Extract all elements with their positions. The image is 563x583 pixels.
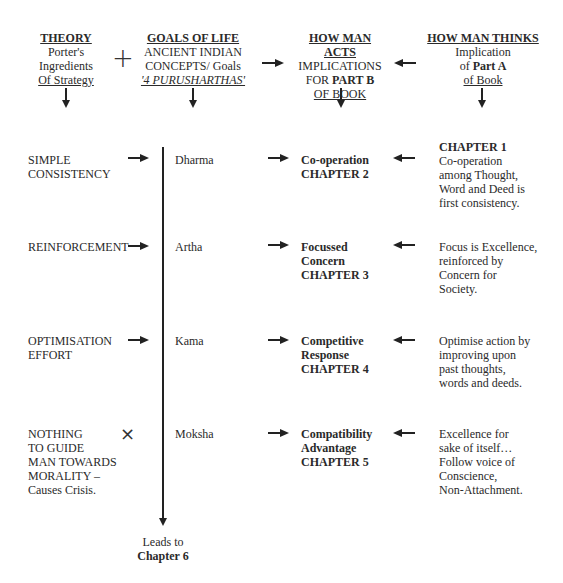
thought-to-action-arrow-icon (393, 241, 415, 249)
thought-excellence-for-sake: Excellence forsake of itself… Follow voi… (439, 427, 523, 497)
goals-line2: CONCEPTS/ Goals (136, 59, 250, 73)
thought-chapter1: CHAPTER 1 Co-operationamong Thought, Wor… (439, 140, 525, 210)
acts-title: HOW MAN ACTS (292, 31, 388, 59)
action-focussed-concern: FocussedConcernCHAPTER 3 (301, 240, 369, 282)
theory-line2: Ingredients (28, 59, 104, 73)
goal-to-action-arrow-icon (268, 241, 289, 249)
strategy-simple-consistency: SIMPLECONSISTENCY (28, 153, 111, 181)
goal-to-action-arrow-icon (268, 336, 289, 344)
thinks-line1: Implication (425, 45, 541, 59)
thinks-line3: of Book (425, 73, 541, 87)
header-thinks: HOW MAN THINKS Implication of Part A of … (425, 31, 541, 87)
goal-kama: Kama (175, 334, 204, 348)
goals-spine-line (162, 147, 164, 523)
thought-to-action-arrow-icon (393, 336, 415, 344)
thought-optimise-action: Optimise action byimproving upon past th… (439, 334, 530, 390)
strategy-arrow-icon (128, 154, 149, 162)
theory-line3: Of Strategy (28, 73, 104, 87)
footer-line1: Leads to (123, 535, 203, 549)
strategy-arrow-icon (128, 242, 149, 250)
goal-to-action-arrow-icon (268, 429, 289, 437)
acts-line2: FOR PART B (292, 73, 388, 87)
strategy-arrow-icon (128, 336, 149, 344)
thought-focus-excellence: Focus is Excellence,reinforced by Concer… (439, 240, 537, 296)
goal-to-action-arrow-icon (268, 154, 289, 162)
footer-chapter6: Chapter 6 (123, 549, 203, 563)
action-compatibility-advantage: CompatibilityAdvantageCHAPTER 5 (301, 427, 372, 469)
theory-title: THEORY (28, 31, 104, 45)
goal-dharma: Dharma (175, 153, 214, 167)
goal-artha: Artha (175, 240, 202, 254)
theory-line1: Porter's (28, 45, 104, 59)
goals-to-acts-arrow-icon (262, 59, 284, 67)
goals-line1: ANCIENT INDIAN (136, 45, 250, 59)
action-cooperation: Co-operationCHAPTER 2 (301, 153, 369, 181)
goal-moksha: Moksha (175, 427, 214, 441)
thought-to-action-arrow-icon (393, 429, 415, 437)
footer-leads-to: Leads to Chapter 6 (123, 535, 203, 563)
acts-line1: IMPLICATIONS (292, 59, 388, 73)
strategy-nothing-to-guide: NOTHINGTO GUIDE MAN TOWARDSMORALITY – Ca… (28, 427, 117, 497)
strategy-reinforcement: REINFORCEMENT (28, 240, 129, 254)
action-competitive-response: CompetitiveResponseCHAPTER 4 (301, 334, 369, 376)
thinks-title: HOW MAN THINKS (425, 31, 541, 45)
goals-title: GOALS OF LIFE (136, 31, 250, 45)
strategy-optimisation-effort: OPTIMISATIONEFFORT (28, 334, 112, 362)
thought-to-action-arrow-icon (393, 154, 415, 162)
header-theory: THEORY Porter's Ingredients Of Strategy (28, 31, 104, 87)
cross-icon: × (120, 425, 135, 443)
header-goals: GOALS OF LIFE ANCIENT INDIAN CONCEPTS/ G… (136, 31, 250, 87)
goals-line3: '4 PURUSHARTHAS' (136, 73, 250, 87)
thinks-line2: of Part A (425, 59, 541, 73)
plus-icon: + (112, 45, 134, 71)
thinks-to-acts-arrow-icon (394, 59, 416, 67)
